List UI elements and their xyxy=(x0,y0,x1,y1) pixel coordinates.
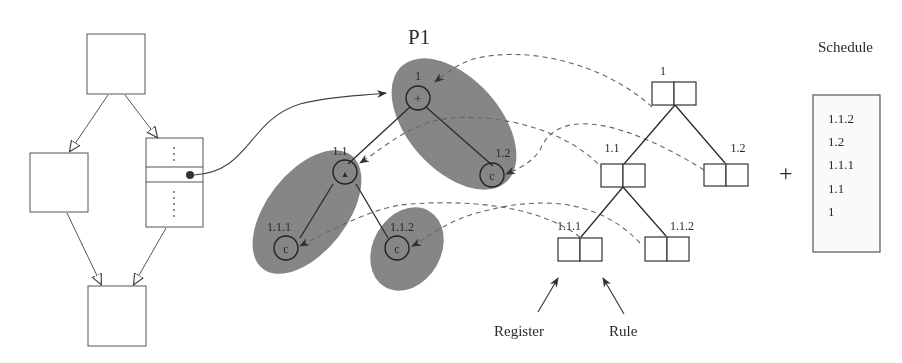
schedule-item: 1 xyxy=(828,204,835,219)
rule-label: Rule xyxy=(609,323,638,339)
svg-text:1.1.2: 1.1.2 xyxy=(670,219,694,233)
pointer-dot-icon xyxy=(186,171,194,179)
register-node-1-1-2 xyxy=(645,237,689,261)
svg-text:▴: ▴ xyxy=(342,168,347,179)
svg-text:1.1.1: 1.1.1 xyxy=(557,219,581,233)
register-tree-labels: 1 1.1 1.2 1.1.1 1.1.2 xyxy=(557,64,746,233)
svg-text:1: 1 xyxy=(660,64,666,78)
svg-text:c: c xyxy=(394,242,399,256)
svg-text:1.1.1: 1.1.1 xyxy=(267,220,291,234)
svg-text:1.1.2: 1.1.2 xyxy=(390,220,414,234)
svg-text:1: 1 xyxy=(415,69,421,83)
register-node-1-1-1 xyxy=(558,238,602,261)
flow-block-bottom xyxy=(88,286,146,346)
svg-text:1.1: 1.1 xyxy=(333,144,348,158)
register-tree xyxy=(558,82,748,261)
svg-text:1.2: 1.2 xyxy=(496,146,511,160)
rule-pointer-arrow xyxy=(603,278,624,314)
group-1.1-1.1.1 xyxy=(231,131,383,294)
register-node-1 xyxy=(652,82,696,105)
schedule-item: 1.1 xyxy=(828,181,844,196)
plus-sign: + xyxy=(779,160,793,186)
register-pointer-arrow xyxy=(538,278,558,312)
schedule-item: 1.2 xyxy=(828,134,844,149)
flow-block-top xyxy=(87,34,145,94)
register-label: Register xyxy=(494,323,544,339)
svg-text:1.2: 1.2 xyxy=(731,141,746,155)
register-node-1-1 xyxy=(601,164,645,187)
svg-text:c: c xyxy=(489,169,494,183)
svg-text:+: + xyxy=(414,91,421,106)
schedule-item: 1.1.1 xyxy=(828,157,854,172)
schedule-title: Schedule xyxy=(818,39,873,55)
p1-title: P1 xyxy=(408,25,430,49)
register-node-1-2 xyxy=(704,164,748,186)
svg-text:1.1: 1.1 xyxy=(605,141,620,155)
svg-text:c: c xyxy=(283,242,288,256)
diagram-canvas: P1 + 1 ▴ 1.1 c 1.2 c 1.1.1 c xyxy=(0,0,902,363)
schedule-item: 1.1.2 xyxy=(828,111,854,126)
flow-block-left xyxy=(30,153,88,212)
group-1-1.2 xyxy=(368,35,541,212)
